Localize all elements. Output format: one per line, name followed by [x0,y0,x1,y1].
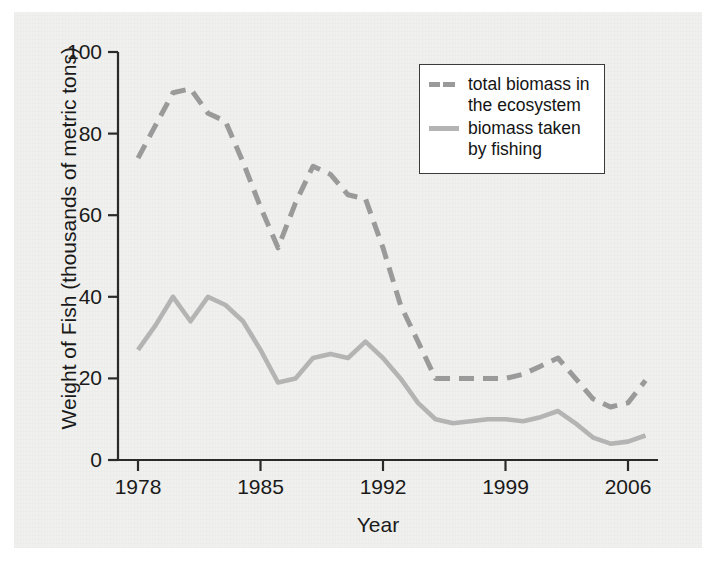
x-axis-tick-label: 1999 [461,476,551,497]
y-axis-title: Weight of Fish (thousands of metric tons… [57,70,80,430]
x-axis-tick-label: 1985 [216,476,306,497]
legend-swatch-dashed-icon [429,82,459,87]
legend-label-line-2: the ecosystem [468,95,581,115]
legend-label-line-1: biomass taken [468,118,581,138]
legend-entry-label: biomass takenby fishing [468,118,581,160]
figure-root: 020406080100 19781985199219992006 Weight… [0,0,716,574]
legend-label-line-2: by fishing [468,139,542,159]
legend-entry-total-biomass: total biomass inthe ecosystem [429,74,596,116]
legend-entry-fishing-biomass: biomass takenby fishing [429,118,596,160]
x-axis-ticks [138,460,628,471]
legend-entry-label: total biomass inthe ecosystem [468,74,590,116]
legend-swatch-solid-icon [429,126,459,131]
x-axis-tick-label: 2006 [583,476,673,497]
x-axis-title: Year [118,514,638,535]
y-axis-tick-label: 0 [40,449,102,470]
x-axis-tick-label: 1992 [338,476,428,497]
chart-legend: total biomass inthe ecosystem biomass ta… [419,64,605,174]
legend-label-line-1: total biomass in [468,74,590,94]
x-axis-tick-label: 1978 [93,476,183,497]
data-series-line [138,297,646,444]
y-axis-ticks [108,52,118,460]
